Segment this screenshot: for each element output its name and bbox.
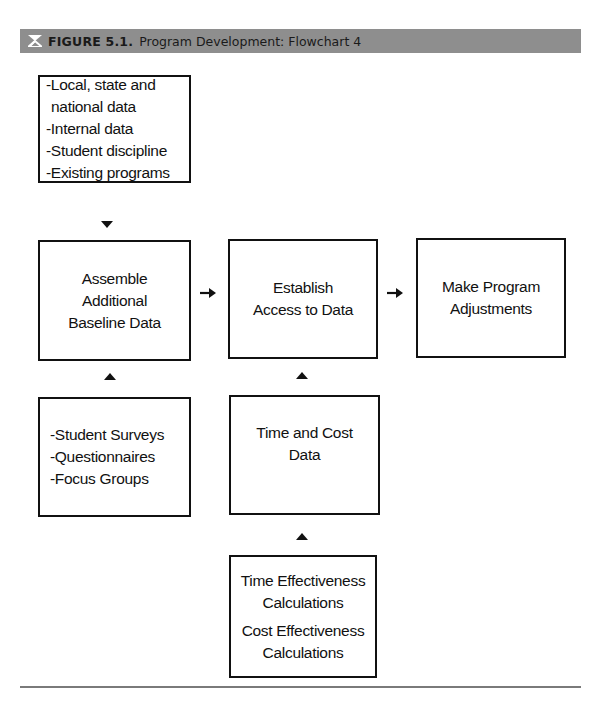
node-assemble-baseline-data: Assemble Additional Baseline Data bbox=[38, 240, 191, 361]
node-line: Time and Cost bbox=[256, 422, 352, 444]
node-line: -Questionnaires bbox=[50, 446, 155, 468]
node-data-sources: -Local, state and national data -Interna… bbox=[38, 75, 191, 183]
node-line: Calculations bbox=[263, 592, 344, 614]
node-line: national data bbox=[46, 96, 136, 118]
arrow-up-icon bbox=[296, 372, 308, 379]
arrow-up-icon bbox=[104, 373, 116, 380]
node-line: Time Effectiveness bbox=[241, 570, 366, 592]
node-line: Adjustments bbox=[450, 298, 532, 320]
node-line: Data bbox=[289, 444, 321, 466]
node-establish-access: Establish Access to Data bbox=[228, 239, 378, 359]
node-line: Baseline Data bbox=[68, 312, 161, 334]
figure-bottom-rule bbox=[20, 686, 581, 688]
node-line: -Internal data bbox=[46, 118, 133, 140]
node-line: -Existing programs bbox=[46, 162, 170, 184]
node-effectiveness-calculations: Time Effectiveness Calculations Cost Eff… bbox=[229, 555, 377, 678]
node-line: Make Program bbox=[442, 276, 540, 298]
node-line: -Student discipline bbox=[46, 140, 167, 162]
node-line: -Student Surveys bbox=[50, 424, 164, 446]
node-time-cost-data: Time and Cost Data bbox=[229, 395, 380, 515]
figure-logo-icon bbox=[28, 35, 42, 47]
figure-label: FIGURE 5.1. bbox=[48, 34, 133, 49]
node-line: Cost Effectiveness bbox=[242, 620, 365, 642]
node-survey-sources: -Student Surveys -Questionnaires -Focus … bbox=[38, 397, 191, 517]
figure-title: Program Development: Flowchart 4 bbox=[139, 34, 361, 49]
node-line: Assemble bbox=[82, 268, 148, 290]
arrow-right-icon bbox=[387, 288, 403, 298]
node-make-program-adjustments: Make Program Adjustments bbox=[416, 238, 566, 358]
arrow-down-icon bbox=[101, 221, 113, 228]
node-line: -Local, state and bbox=[46, 74, 156, 96]
node-line: Calculations bbox=[263, 642, 344, 664]
node-line: -Focus Groups bbox=[50, 468, 149, 490]
figure-header: FIGURE 5.1. Program Development: Flowcha… bbox=[20, 29, 581, 53]
node-line: Establish bbox=[273, 277, 333, 299]
node-line: Additional bbox=[82, 290, 147, 312]
arrow-right-icon bbox=[200, 288, 216, 298]
node-line: Access to Data bbox=[253, 299, 353, 321]
arrow-up-icon bbox=[296, 533, 308, 540]
